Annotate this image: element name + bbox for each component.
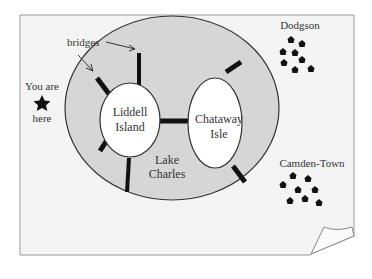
map-diagram: Liddell Island Chataway Isle Lake Charle… xyxy=(0,0,372,279)
bridge-4 xyxy=(127,158,129,192)
here-label: here xyxy=(33,112,52,124)
liddell-label-2: Island xyxy=(115,120,144,134)
liddell-label-1: Liddell xyxy=(113,105,148,119)
lake-label-1: Lake xyxy=(155,153,179,167)
dodgson-label: Dodgson xyxy=(280,19,320,31)
chataway-label-2: Isle xyxy=(210,127,227,141)
you-are-label: You are xyxy=(25,80,59,92)
chataway-label-1: Chataway xyxy=(195,112,243,126)
lake-label-2: Charles xyxy=(149,167,186,181)
bridges-label: bridges xyxy=(67,36,99,48)
camden-label: Camden-Town xyxy=(279,157,345,169)
